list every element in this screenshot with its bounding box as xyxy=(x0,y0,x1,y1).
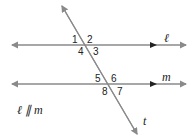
angle-7-label: 7 xyxy=(117,86,123,97)
line-m-label: m xyxy=(162,70,171,84)
angle-6-label: 6 xyxy=(111,73,117,84)
parallel-arrow-icon xyxy=(150,42,157,48)
line-t-label: t xyxy=(143,114,147,128)
angle-8-label: 8 xyxy=(102,86,108,97)
angle-2-label: 2 xyxy=(87,34,93,45)
parallel-caption: ℓ ∥ m xyxy=(17,103,43,117)
transversal-t xyxy=(62,6,137,134)
angle-1-label: 1 xyxy=(72,34,78,45)
angle-3-label: 3 xyxy=(93,46,99,57)
parallel-lines-diagram: 1 2 3 4 5 6 7 8 ℓ m t ℓ ∥ m xyxy=(0,0,194,137)
line-l-label: ℓ xyxy=(164,31,169,45)
parallel-arrow-icon xyxy=(150,81,157,87)
angle-5-label: 5 xyxy=(95,73,101,84)
angle-4-label: 4 xyxy=(78,46,84,57)
line-l xyxy=(12,42,186,48)
